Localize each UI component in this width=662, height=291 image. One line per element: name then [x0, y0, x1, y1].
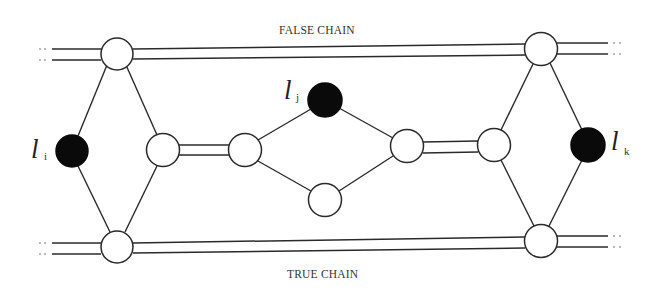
- edge-left-mid-true-left: [125, 166, 157, 232]
- literal-lk-subscript: k: [624, 145, 630, 157]
- edge-lj-gadget-right: [339, 108, 393, 138]
- edge-false-left-left-mid: [126, 65, 157, 135]
- edge-right-mid-true-right: [501, 160, 534, 226]
- literal-label-lk: l k: [611, 126, 630, 157]
- false-chain-label: FALSE CHAIN: [279, 24, 355, 36]
- node-literal-li: [56, 135, 88, 167]
- node-false-right: [525, 33, 558, 66]
- edge-false-right-lk: [550, 63, 582, 130]
- false-chain-continuation-left: [39, 48, 46, 61]
- literal-label-lj: l j: [284, 75, 299, 105]
- double-edge-left-mid-gadget-left: [179, 145, 229, 155]
- edge-li-true-left: [78, 166, 110, 232]
- node-literal-lj: [308, 83, 342, 117]
- literal-lk-letter: l: [611, 126, 619, 156]
- literal-lj-subscript: j: [295, 91, 299, 103]
- edge-gadget-left-lj: [258, 109, 311, 140]
- node-right-mid: [478, 129, 511, 162]
- node-gadget-left: [229, 134, 262, 167]
- node-left-mid: [147, 134, 180, 167]
- true-chain-label: TRUE CHAIN: [287, 268, 359, 280]
- node-true-right: [525, 225, 558, 258]
- true-chain-continuation-left: [39, 242, 46, 255]
- node-gadget-right: [391, 130, 424, 163]
- literal-li-subscript: i: [44, 150, 47, 162]
- edge-false-left-li: [78, 65, 107, 136]
- edge-lk-true-right: [549, 160, 582, 226]
- true-chain-continuation-right: [613, 235, 621, 248]
- edge-gadget-bottom-gadget-right: [339, 156, 393, 191]
- false-chain-continuation-right: [613, 42, 621, 55]
- node-true-left: [101, 231, 133, 263]
- edge-gadget-left-gadget-bottom: [258, 161, 311, 191]
- node-literal-lk: [571, 128, 605, 162]
- node-false-left: [101, 38, 133, 70]
- chain-gadget-diagram: FALSE CHAIN TRUE CHAIN: [0, 0, 662, 291]
- literal-lj-letter: l: [284, 75, 292, 105]
- node-gadget-bottom: [309, 184, 342, 217]
- literal-label-li: l i: [31, 134, 47, 164]
- literal-li-letter: l: [31, 134, 39, 164]
- edge-false-right-right-mid: [501, 64, 533, 130]
- double-edge-gadget-right-right-mid: [423, 141, 478, 153]
